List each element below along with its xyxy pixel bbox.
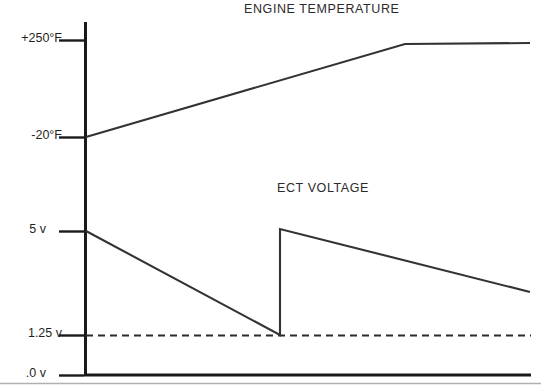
axis-label-temp-low: -20°F [0, 128, 62, 142]
ect-voltage-curve [86, 229, 530, 335]
axis-label-voltage-high: 5 v [0, 222, 46, 236]
chart-title-engine-temperature: ENGINE TEMPERATURE [244, 2, 400, 16]
axis-label-voltage-zero: .0 v [0, 366, 46, 380]
engine-temperature-curve [86, 43, 530, 137]
chart-figure: ENGINE TEMPERATURE ECT VOLTAGE +250°F -2… [0, 0, 541, 390]
chart-title-ect-voltage: ECT VOLTAGE [277, 181, 369, 195]
axis-label-temp-high: +250°F [0, 31, 62, 45]
axis-label-voltage-threshold: 1.25 v [0, 326, 62, 340]
chart-plot-area [0, 0, 541, 390]
